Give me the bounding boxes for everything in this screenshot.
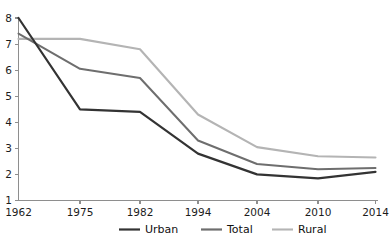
x-tick-label: 1982: [127, 206, 154, 218]
y-tick-label: 1: [5, 194, 12, 206]
series-line-urban: [19, 18, 376, 178]
y-tick-label: 6: [5, 64, 12, 76]
legend-item-total[interactable]: Total: [201, 223, 253, 236]
legend-item-rural[interactable]: Rural: [272, 223, 326, 236]
series-line-total: [19, 34, 376, 170]
legend-label-rural: Rural: [298, 223, 326, 236]
x-tick-label: 1962: [5, 206, 32, 218]
legend-label-total: Total: [226, 223, 253, 236]
y-tick-label: 2: [5, 168, 12, 180]
chart-legend: UrbanTotalRural: [119, 223, 326, 236]
x-axis-ticks: 1962197519821994200420102014: [5, 201, 389, 218]
x-tick-label: 1975: [67, 206, 94, 218]
y-tick-label: 4: [5, 116, 12, 128]
x-axis: 1962197519821994200420102014: [5, 201, 389, 218]
data-series-group: [19, 18, 376, 178]
line-chart: 12345678 1962197519821994200420102014 Ur…: [0, 0, 391, 242]
y-tick-label: 8: [5, 12, 12, 24]
legend-label-urban: Urban: [145, 223, 178, 236]
x-tick-label: 2010: [305, 206, 332, 218]
y-axis: 12345678: [5, 12, 18, 207]
legend-item-urban[interactable]: Urban: [119, 223, 178, 236]
y-axis-ticks: 12345678: [5, 12, 18, 207]
chart-canvas: 12345678 1962197519821994200420102014 Ur…: [0, 0, 391, 242]
x-tick-label: 2014: [362, 206, 389, 218]
y-tick-label: 3: [5, 142, 12, 154]
y-tick-label: 5: [5, 90, 12, 102]
x-tick-label: 2004: [244, 206, 271, 218]
x-tick-label: 1994: [185, 206, 212, 218]
y-tick-label: 7: [5, 38, 12, 50]
